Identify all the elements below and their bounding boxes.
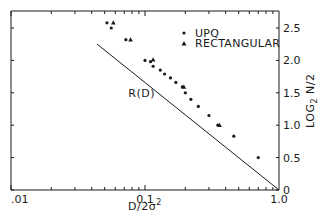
upq-point <box>197 105 200 108</box>
upq-point <box>189 98 192 101</box>
upq-point <box>174 81 177 84</box>
legend-circle-icon <box>182 31 185 34</box>
y-tick-label: 1.5 <box>283 87 301 100</box>
x-tick-label: .01 <box>11 193 29 206</box>
upq-point <box>110 26 113 29</box>
chart: .010.11.0 00.51.01.52.02.5 R(D) UPQ RECT… <box>0 0 323 220</box>
upq-point <box>257 156 260 159</box>
upq-point <box>169 76 172 79</box>
y-tick-label: 2.0 <box>283 54 301 67</box>
rectangular-point <box>111 20 116 24</box>
rd-curve <box>97 44 279 190</box>
upq-point <box>163 72 166 75</box>
y-tick-label: 1.0 <box>283 119 301 132</box>
x-axis-title-main: D/2σ <box>128 200 156 213</box>
rectangular-point <box>128 37 133 41</box>
y-axis-title: LOG2 N/2 <box>304 74 319 128</box>
upq-point <box>232 135 235 138</box>
upq-point <box>159 69 162 72</box>
y-tick-label: 2.5 <box>283 22 301 35</box>
y-tick-label: 0.5 <box>283 152 301 165</box>
y-axis-title-main: LOG <box>304 104 317 128</box>
y-tick-label: 0 <box>283 184 290 197</box>
legend-triangle-icon <box>182 41 187 46</box>
x-axis-title-superscript: 2 <box>156 198 162 207</box>
upq-point <box>207 114 210 117</box>
y-axis-title-rest: N/2 <box>304 74 317 98</box>
rd-annotation: R(D) <box>128 87 155 100</box>
svg-text:LOG2 N/2: LOG2 N/2 <box>304 74 319 128</box>
upq-point <box>152 65 155 68</box>
legend-label-rectangular: RECTANGULAR <box>195 37 280 50</box>
upq-point <box>124 38 127 41</box>
upq-point <box>105 21 108 24</box>
upq-point <box>143 59 146 62</box>
upq-point <box>184 91 187 94</box>
x-axis-title: D/2σ2 <box>128 198 162 213</box>
legend: UPQ RECTANGULAR <box>182 27 281 50</box>
rectangular-point <box>151 57 156 61</box>
